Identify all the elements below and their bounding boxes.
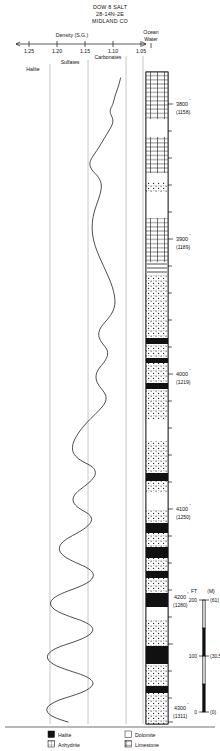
axis-tick-2: 1.15 [80,48,90,54]
bed-halite [146,523,168,533]
depth-ft-3900: 3900 [176,236,188,242]
depth-prime-4000: ' [190,368,191,374]
legend-swatch-dolomite [125,731,132,738]
bed-anhydrite [146,441,168,473]
depth-m-4300: (1311) [173,713,187,719]
bed-anhydrite [146,664,168,686]
bed-dolomite [146,173,168,182]
legend-item-dolomite: Dolomite [125,731,156,738]
chart-title: DOW 8 SALT 28-14N-2E MIDLAND CO [92,4,128,24]
scale-mark-100-m: (30.5) [210,653,220,659]
bed-anhydrite [146,344,168,358]
bed-anhydrite [146,533,168,547]
bed-anhydrite [146,363,168,383]
depth-label-3900: 3900 ' (1189) [176,233,191,251]
bed-halite [146,338,168,344]
density-axis-label: Density (S.G.) [56,32,89,38]
bed-dolomite [146,493,168,509]
lithology-column [146,72,168,724]
bed-dolomite [146,419,168,441]
bed-halite [146,571,168,578]
legend-label-dolomite: Dolomite [135,732,156,738]
legend-label-halite: Halite [58,732,71,738]
depth-prime-4300: ' [188,702,189,708]
zone-divider-lines [50,56,143,724]
bed-laminated [146,262,168,274]
depth-m-3800: (1158) [176,109,190,115]
legend-label-anhydrite: Anhydrite [58,742,80,748]
depth-ft-4300: 4300 [174,705,186,711]
legend-swatch-limestone [125,741,132,748]
depth-prime-4200: ' [188,591,189,597]
bed-dolomite [146,607,168,620]
bed-halite [146,686,168,693]
axis-tick-4: 1.05 [136,48,146,54]
title-line-3: MIDLAND CO [92,18,128,24]
depth-m-4000: (1219) [176,379,191,385]
depth-m-4200: (1280) [173,602,188,608]
scale-unit-m: (M) [207,588,215,594]
bed-halite [146,547,168,558]
scale-unit-ft: FT [191,588,197,594]
legend-item-halite: Halite [48,731,71,738]
title-line-1: DOW 8 SALT [93,4,128,10]
bed-anhydrite [146,310,168,338]
bed-halite [146,358,168,363]
legend-label-limestone: Limestone [135,742,159,748]
bed-anhydrite [146,389,168,419]
legend-swatch-halite [48,731,55,738]
depth-label-3800: 3800 ' (1158) [176,98,191,116]
zone-label-sulfates: Sulfates [61,59,80,65]
bed-anhydrite [146,693,168,724]
scale-mark-200-m: (61) [210,597,219,603]
zone-label-halite: Halite [26,66,39,72]
legend: Halite Anhydrite Dolomite Limestone [5,727,215,748]
bed-limestone [146,137,168,173]
bed-dolomite [146,192,168,218]
bed-anhydrite [146,481,168,493]
axis-tick-0: 1.25 [24,48,34,54]
bed-limestone [146,72,168,119]
depth-label-4100: 4100 ' (1250) [176,503,191,521]
bed-anhydrite [146,274,168,310]
scale-bar: FT (M) 200 (61) 100 (30.5) 0 (0) [189,588,220,715]
scale-bar-graphic [199,600,209,712]
density-axis: Density (S.G.) 1.25 1.20 1.15 1.10 1.05 … [16,29,159,54]
scale-mark-200-ft: 200 [189,597,198,603]
depth-label-4200: 4200 ' (1280) [173,591,189,609]
bed-anhydrite [146,509,168,523]
depth-prime-3900: ' [190,233,191,239]
scale-mark-0-ft: 0 [194,709,197,715]
legend-swatch-anhydrite [48,741,55,748]
scale-mark-0-m: (0) [210,709,216,715]
bed-dolomite [146,119,168,137]
density-curve [47,78,121,722]
depth-m-3900: (1189) [176,244,190,250]
bed-anhydrite [146,182,168,192]
ocean-water-label-line-2: Water [144,36,158,42]
legend-item-limestone: Limestone [125,741,159,748]
depth-prime-4100: ' [190,503,191,509]
legend-item-anhydrite: Anhydrite [48,741,80,748]
depth-ft-4200: 4200 [174,594,186,600]
depth-ft-4100: 4100 [176,506,188,512]
bed-anhydrite [146,578,168,593]
bed-halite [146,473,168,481]
axis-tick-1: 1.20 [52,48,62,54]
well-log-figure: DOW 8 SALT 28-14N-2E MIDLAND CO Density … [0,0,220,751]
bed-halite [146,646,168,664]
scale-mark-100-ft: 100 [189,653,198,659]
depth-m-4100: (1250) [176,514,191,520]
title-line-2: 28-14N-2E [96,11,124,17]
bed-halite [146,383,168,389]
bed-halite [146,593,168,607]
bed-anhydrite [146,558,168,571]
ocean-water-label-line-1: Ocean [143,29,158,35]
bed-anhydrite [146,620,168,646]
depth-prime-3800: ' [190,98,191,104]
zone-labels: Halite Sulfates Carbonates [26,54,143,724]
lithology-beds [146,72,168,724]
depth-label-4000: 4000 ' (1219) [176,368,191,386]
depth-ft-3800: 3800 [176,101,188,107]
zone-label-carbonates: Carbonates [95,54,122,60]
